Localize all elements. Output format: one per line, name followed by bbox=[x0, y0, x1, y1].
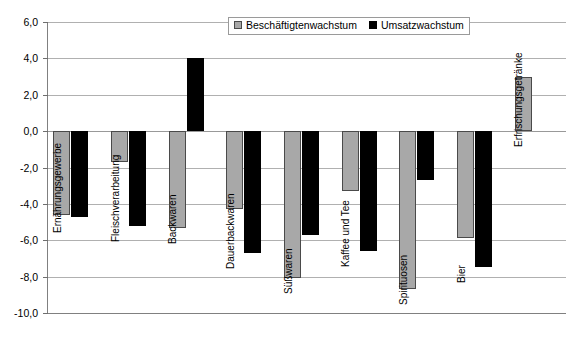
x-axis-category-label: Kaffee und Tee bbox=[341, 200, 351, 267]
y-tick-mark bbox=[43, 95, 48, 96]
y-axis-tick-label: -8,0 bbox=[0, 271, 38, 282]
legend-item-revenue: Umsatzwachstum bbox=[369, 20, 464, 31]
y-tick-mark bbox=[43, 58, 48, 59]
y-tick-mark bbox=[43, 168, 48, 169]
bar-employment bbox=[457, 131, 474, 237]
y-axis-tick-label: -10,0 bbox=[0, 308, 38, 319]
x-axis-category-label: Süßwaren bbox=[284, 249, 294, 295]
y-axis-tick-label: 2,0 bbox=[0, 90, 38, 101]
bar-revenue bbox=[302, 131, 319, 235]
x-axis-category-label: Erfrischungsgetränke bbox=[514, 53, 524, 148]
y-tick-mark bbox=[43, 313, 48, 314]
gridline bbox=[48, 58, 566, 59]
y-tick-mark bbox=[43, 22, 48, 23]
gridline bbox=[48, 313, 566, 314]
y-tick-mark bbox=[43, 204, 48, 205]
legend-swatch-gray-icon bbox=[234, 21, 242, 29]
x-axis-category-label: Bier bbox=[457, 265, 467, 283]
legend-label-revenue: Umsatzwachstum bbox=[381, 20, 464, 31]
bar-employment bbox=[342, 131, 359, 191]
chart-legend: Beschäftigtenwachstum Umsatzwachstum bbox=[228, 17, 470, 35]
bar-revenue bbox=[417, 131, 434, 180]
bar-revenue bbox=[475, 131, 492, 266]
bar-revenue bbox=[244, 131, 261, 253]
x-axis-category-label: Ernährungsgewerbe bbox=[53, 143, 63, 233]
y-tick-mark bbox=[43, 131, 48, 132]
legend-item-employment: Beschäftigtenwachstum bbox=[234, 20, 357, 31]
bar-chart: 6,04,02,00,0-2,0-4,0-6,0-8,0-10,0 Ernähr… bbox=[0, 0, 572, 354]
bar-revenue bbox=[360, 131, 377, 251]
bar-revenue bbox=[71, 131, 88, 216]
y-axis-tick-label: -2,0 bbox=[0, 162, 38, 173]
x-axis-category-label: Fleischverarbeitung bbox=[111, 154, 121, 241]
y-axis-tick-label: -6,0 bbox=[0, 235, 38, 246]
y-axis-tick-label: 6,0 bbox=[0, 17, 38, 28]
x-axis-category-label: Backwaren bbox=[168, 194, 178, 243]
x-axis-category-label: Dauerbackwaren bbox=[226, 193, 236, 269]
y-axis-tick-label: 4,0 bbox=[0, 53, 38, 64]
y-axis-tick-label: 0,0 bbox=[0, 126, 38, 137]
bar-revenue bbox=[129, 131, 146, 226]
gridline bbox=[48, 277, 566, 278]
plot-area bbox=[47, 22, 566, 313]
x-axis-category-label: Spirituosen bbox=[399, 255, 409, 305]
gridline bbox=[48, 95, 566, 96]
legend-swatch-black-icon bbox=[369, 21, 377, 29]
y-axis-tick-label: -4,0 bbox=[0, 199, 38, 210]
legend-label-employment: Beschäftigtenwachstum bbox=[246, 20, 357, 31]
y-tick-mark bbox=[43, 277, 48, 278]
bar-revenue bbox=[187, 58, 204, 131]
y-tick-mark bbox=[43, 240, 48, 241]
